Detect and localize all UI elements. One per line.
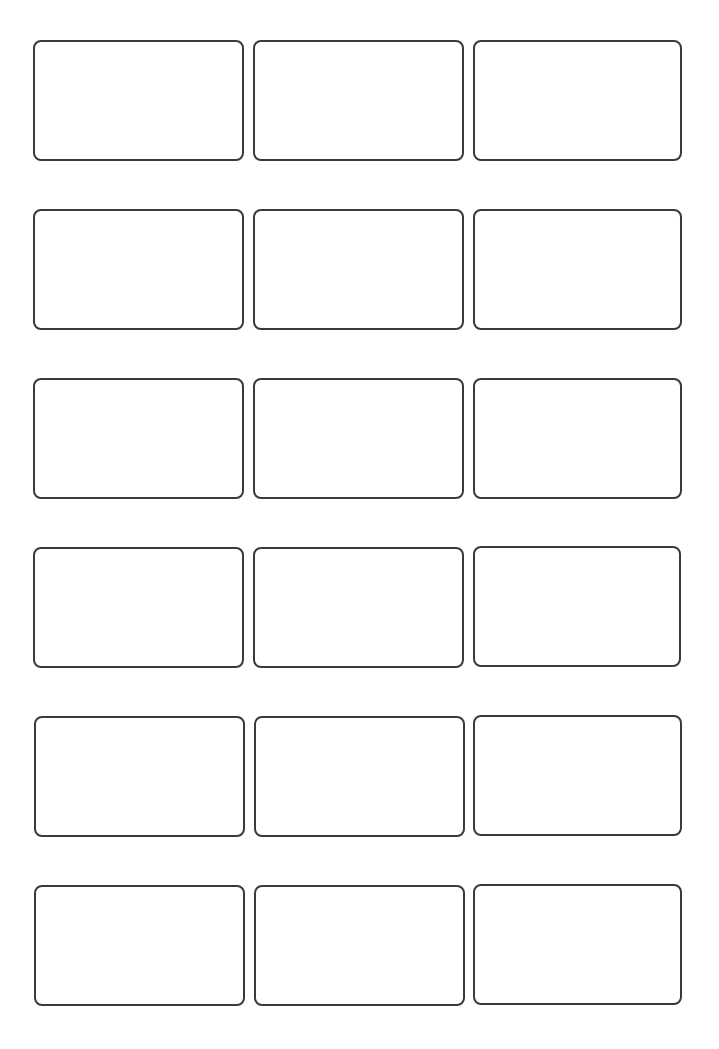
card-r2-c3 — [473, 209, 682, 330]
card-r3-c2 — [253, 378, 464, 499]
card-r3-c1 — [33, 378, 244, 499]
card-r5-c2 — [254, 716, 465, 837]
card-r1-c1 — [33, 40, 244, 161]
card-r2-c2 — [253, 209, 464, 330]
card-r5-c3 — [473, 715, 682, 836]
card-r4-c3 — [473, 546, 681, 667]
card-r4-c2 — [253, 547, 464, 668]
card-r6-c1 — [34, 885, 245, 1006]
card-r3-c3 — [473, 378, 682, 499]
card-r1-c2 — [253, 40, 464, 161]
card-r6-c3 — [473, 884, 682, 1005]
card-r4-c1 — [33, 547, 244, 668]
card-r5-c1 — [34, 716, 245, 837]
card-r6-c2 — [254, 885, 465, 1006]
label-sheet — [0, 0, 719, 1049]
card-r1-c3 — [473, 40, 682, 161]
card-r2-c1 — [33, 209, 244, 330]
